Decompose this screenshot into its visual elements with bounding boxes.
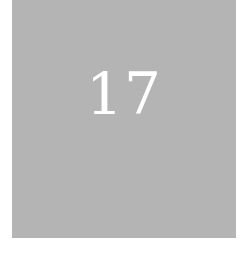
number-tile: 17 <box>12 0 236 238</box>
tile-number: 17 <box>12 62 236 126</box>
